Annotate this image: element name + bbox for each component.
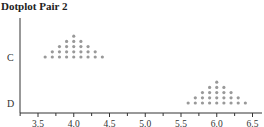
data-dot [208, 101, 211, 104]
data-dot [51, 50, 54, 53]
data-dot [51, 55, 54, 58]
data-dot [215, 101, 218, 104]
data-dot [94, 50, 97, 53]
data-dot [86, 50, 89, 53]
x-tick-label: 6.0 [211, 119, 223, 127]
data-dot [229, 91, 232, 94]
data-dot [72, 55, 75, 58]
x-tick-label: 5.0 [139, 119, 151, 127]
data-dot [201, 101, 204, 104]
y-category-label-d: D [7, 98, 14, 109]
data-dot [72, 50, 75, 53]
data-dot [72, 40, 75, 43]
data-dot [65, 55, 68, 58]
data-dot [229, 96, 232, 99]
data-dot [222, 91, 225, 94]
data-dot [101, 55, 104, 58]
data-dot [237, 96, 240, 99]
x-tick-label: 4.0 [68, 119, 80, 127]
data-dot [201, 91, 204, 94]
data-dot [58, 55, 61, 58]
data-dot [215, 91, 218, 94]
data-dot [208, 86, 211, 89]
data-dot [79, 50, 82, 53]
data-dot [215, 81, 218, 84]
dotplot-chart: 3.54.04.55.05.56.06.5CD [0, 0, 264, 127]
data-dot [222, 101, 225, 104]
data-dot [72, 45, 75, 48]
data-dot [86, 45, 89, 48]
data-dot [79, 40, 82, 43]
data-dot [222, 86, 225, 89]
data-dot [208, 96, 211, 99]
data-dot [72, 35, 75, 38]
data-dot [86, 55, 89, 58]
data-dot [65, 40, 68, 43]
data-dot [201, 96, 204, 99]
x-tick-label: 6.5 [247, 119, 259, 127]
data-dot [44, 55, 47, 58]
data-dot [194, 101, 197, 104]
data-dot [229, 101, 232, 104]
data-dot [222, 96, 225, 99]
data-dot [194, 96, 197, 99]
data-dot [215, 96, 218, 99]
y-category-label-c: C [7, 52, 14, 63]
data-dot [237, 101, 240, 104]
x-tick-label: 4.5 [104, 119, 116, 127]
data-dot [187, 101, 190, 104]
data-dot [208, 91, 211, 94]
data-dot [244, 101, 247, 104]
data-dot [58, 50, 61, 53]
x-tick-label: 5.5 [175, 119, 187, 127]
data-dot [79, 45, 82, 48]
data-dot [94, 55, 97, 58]
data-dot [215, 86, 218, 89]
data-dot [65, 45, 68, 48]
data-dot [79, 55, 82, 58]
x-tick-label: 3.5 [32, 119, 44, 127]
data-dot [65, 50, 68, 53]
data-dot [58, 45, 61, 48]
